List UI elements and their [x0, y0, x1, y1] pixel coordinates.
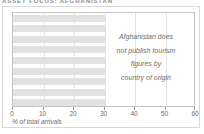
- x-tick-label: 40: [130, 110, 137, 117]
- bar: [13, 25, 105, 32]
- bar: [13, 99, 105, 106]
- x-tick-label: 20: [69, 110, 76, 117]
- x-tick-label: 50: [161, 110, 168, 117]
- bar: [13, 89, 105, 96]
- bar: [13, 68, 105, 75]
- page-header: ASSET FOCUS: AFGHANISTAN: [0, 0, 204, 5]
- x-tick-label: 30: [100, 110, 107, 117]
- x-axis-label: % of total arrivals: [12, 118, 62, 125]
- gridline: [135, 13, 136, 106]
- bar: [13, 78, 105, 85]
- plot-area: [12, 12, 195, 107]
- bar: [13, 15, 105, 22]
- x-tick-label: 10: [39, 110, 46, 117]
- x-tick-label: 0: [10, 110, 14, 117]
- page-title: ASSET FOCUS: AFGHANISTAN: [0, 0, 204, 5]
- gridline: [105, 13, 106, 106]
- bar: [13, 57, 105, 64]
- gridline: [166, 13, 167, 106]
- bar: [13, 46, 105, 53]
- bar: [13, 36, 105, 43]
- x-tick-label: 60: [191, 110, 198, 117]
- bar-chart: Afghanistan doesnot publish tourismfigur…: [8, 12, 196, 124]
- chart-card: Afghanistan doesnot publish tourismfigur…: [2, 6, 200, 128]
